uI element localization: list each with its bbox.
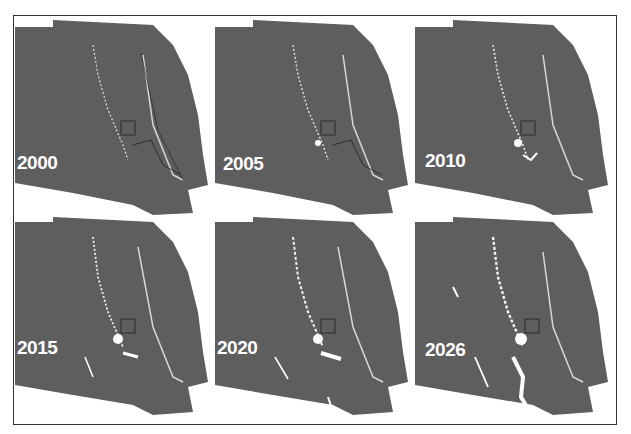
- year-label: 2010: [425, 150, 465, 172]
- map-shape: [13, 217, 213, 422]
- year-label: 2005: [223, 153, 263, 175]
- year-label: 2020: [217, 337, 257, 359]
- map-panel-2005: 2005: [213, 15, 413, 220]
- map-shape: [413, 15, 613, 220]
- map-shape: [213, 15, 413, 220]
- map-shape: [413, 217, 613, 422]
- year-label: 2026: [425, 339, 465, 361]
- year-label: 2015: [17, 337, 57, 359]
- map-shape: [13, 15, 213, 220]
- map-panel-2026: 2026: [413, 217, 613, 422]
- map-panel-2000: 2000: [13, 15, 213, 220]
- map-panel-2015: 2015: [13, 217, 213, 422]
- map-panel-2020: 2020: [213, 217, 413, 422]
- year-label: 2000: [17, 152, 57, 174]
- map-shape: [213, 217, 413, 422]
- map-panel-2010: 2010: [413, 15, 613, 220]
